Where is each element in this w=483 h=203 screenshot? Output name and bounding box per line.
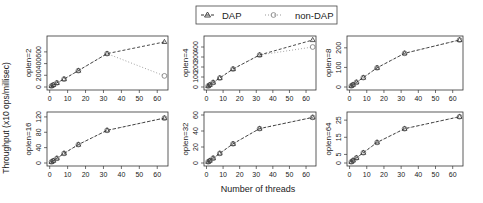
x-tick-label: 60: [153, 171, 161, 178]
panel-label: oplen=16: [24, 122, 33, 156]
x-tick-label: 40: [269, 95, 277, 102]
y-tick-label: 40: [35, 144, 42, 152]
plot-area: [347, 36, 463, 90]
x-tick-label: 60: [302, 95, 310, 102]
panel-label: oplen=32: [181, 122, 190, 156]
plot-area: [47, 112, 168, 166]
y-tick-label: 5: [335, 152, 342, 156]
x-tick-label: 60: [449, 171, 457, 178]
y-tick-label: 0: [35, 161, 42, 165]
x-tick-label: 20: [380, 95, 388, 102]
plot-area: [47, 36, 168, 90]
x-tick-label: 40: [269, 171, 277, 178]
y-tick-label: 80: [35, 128, 42, 136]
y-tick-label: 100: [335, 61, 342, 73]
x-tick-label: 50: [432, 95, 440, 102]
x-tick-label: 30: [100, 171, 108, 178]
x-tick-label: 60: [302, 171, 310, 178]
x-tick-label: 10: [64, 171, 72, 178]
x-tick-label: 0: [48, 95, 52, 102]
panel-label: oplen=2: [24, 48, 33, 77]
panel-oplen=64: 0102030405060051525oplen=64: [324, 112, 463, 178]
y-tick-label: 40: [192, 127, 199, 135]
x-tick-label: 30: [397, 95, 405, 102]
x-tick-label: 60: [153, 95, 161, 102]
x-tick-label: 40: [414, 95, 422, 102]
x-tick-label: 10: [363, 95, 371, 102]
panel-oplen=16: 010203040506004080120oplen=16: [24, 111, 168, 178]
y-axis-title: Throughput (x10 ops/millisec): [1, 62, 11, 174]
y-tick-label: 600: [35, 46, 42, 58]
x-tick-label: 10: [219, 171, 227, 178]
x-tick-label: 30: [100, 95, 108, 102]
x-tick-label: 0: [205, 171, 209, 178]
x-tick-label: 50: [135, 95, 143, 102]
legend-dap-label: DAP: [222, 10, 242, 21]
x-tick-label: 20: [82, 171, 90, 178]
x-tick-label: 20: [236, 171, 244, 178]
y-tick-label: 60: [192, 111, 199, 119]
y-tick-label: 400: [192, 41, 199, 53]
plot-area: [347, 112, 463, 166]
x-tick-label: 0: [48, 171, 52, 178]
x-tick-label: 50: [432, 171, 440, 178]
x-tick-label: 50: [286, 95, 294, 102]
x-tick-label: 40: [117, 95, 125, 102]
y-tick-label: 200: [35, 69, 42, 81]
panel-oplen=8: 01020304050600100200oplen=8: [324, 36, 463, 102]
legend-nondap-label: non-DAP: [295, 10, 334, 21]
x-tick-label: 0: [205, 95, 209, 102]
x-axis-title: Number of threads: [221, 184, 296, 194]
x-tick-label: 0: [348, 171, 352, 178]
legend: DAP non-DAP: [196, 6, 337, 24]
y-tick-label: 0: [192, 161, 199, 165]
x-tick-label: 10: [64, 95, 72, 102]
y-tick-label: 0: [335, 161, 342, 165]
panel-oplen=4: 01020304050600100200300400oplen=4: [181, 36, 316, 102]
x-tick-label: 30: [252, 95, 260, 102]
y-tick-label: 0: [35, 85, 42, 89]
y-tick-label: 0: [192, 85, 199, 89]
x-tick-label: 50: [135, 171, 143, 178]
x-tick-label: 30: [397, 171, 405, 178]
y-tick-label: 0: [335, 85, 342, 89]
x-tick-label: 30: [252, 171, 260, 178]
x-tick-label: 20: [236, 95, 244, 102]
panel-oplen=32: 01020304050600204060oplen=32: [181, 111, 316, 178]
x-tick-label: 10: [219, 95, 227, 102]
y-tick-label: 25: [335, 116, 342, 124]
y-tick-label: 400: [35, 58, 42, 70]
panel-label: oplen=64: [324, 122, 333, 156]
x-tick-label: 0: [348, 95, 352, 102]
x-tick-label: 20: [82, 95, 90, 102]
panel-oplen=2: 01020304050600200400600oplen=2: [24, 36, 168, 102]
y-tick-label: 15: [335, 133, 342, 141]
chart-figure: DAP non-DAP Throughput (x10 ops/millisec…: [0, 0, 483, 203]
y-tick-label: 120: [35, 111, 42, 123]
y-tick-label: 200: [335, 42, 342, 54]
x-tick-label: 20: [380, 171, 388, 178]
panel-label: oplen=8: [324, 48, 333, 77]
x-tick-label: 40: [117, 171, 125, 178]
x-tick-label: 40: [414, 171, 422, 178]
panel-label: oplen=4: [181, 48, 190, 77]
x-tick-label: 10: [363, 171, 371, 178]
x-tick-label: 60: [449, 95, 457, 102]
y-tick-label: 20: [192, 143, 199, 151]
x-tick-label: 50: [286, 171, 294, 178]
